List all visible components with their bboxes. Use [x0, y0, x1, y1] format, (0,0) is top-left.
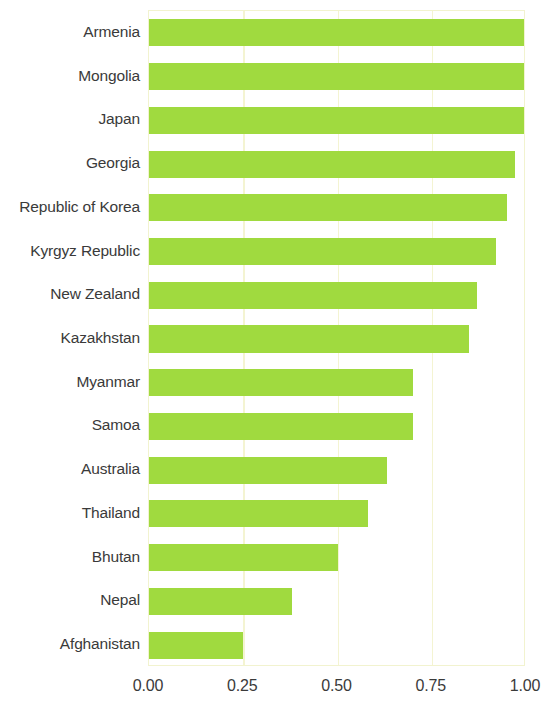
bar-chart: ArmeniaMongoliaJapanGeorgiaRepublic of K… [0, 0, 544, 709]
x-axis-labels: 0.000.250.500.751.00 [0, 0, 544, 709]
x-axis-tick-label: 0.00 [133, 678, 163, 694]
x-axis-tick-label: 0.25 [227, 678, 257, 694]
x-axis-tick-label: 0.50 [321, 678, 351, 694]
x-axis-tick-label: 1.00 [510, 678, 540, 694]
x-axis-tick-label: 0.75 [416, 678, 446, 694]
